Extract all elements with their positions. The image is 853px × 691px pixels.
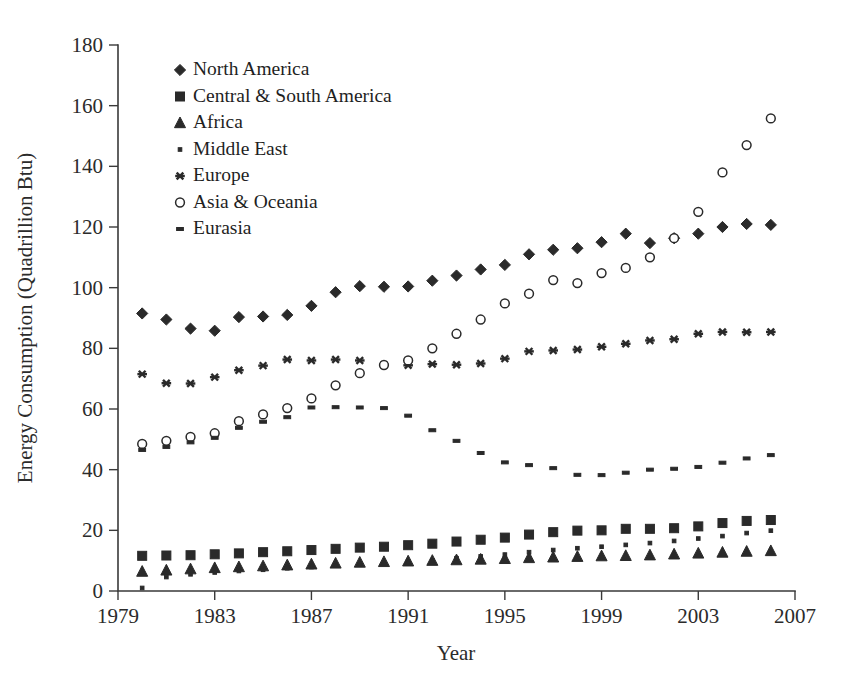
data-point <box>282 309 293 320</box>
data-point <box>259 410 268 419</box>
data-point <box>695 465 702 468</box>
data-point <box>766 329 776 336</box>
data-point <box>694 207 703 216</box>
data-point <box>741 546 752 557</box>
data-point <box>453 439 460 442</box>
legend-label: Middle East <box>193 138 288 159</box>
data-point <box>694 522 703 531</box>
x-tick-label: 1999 <box>581 604 623 628</box>
data-point <box>162 551 171 560</box>
data-point <box>452 537 461 546</box>
data-point <box>765 219 776 230</box>
data-point <box>284 416 291 419</box>
data-point <box>647 468 654 471</box>
data-point <box>669 548 680 559</box>
y-tick-label: 0 <box>93 579 104 603</box>
data-point <box>549 528 558 537</box>
data-point <box>765 545 776 556</box>
legend-item-europe: Europe <box>175 164 249 185</box>
data-point <box>332 406 339 409</box>
data-point <box>404 541 413 550</box>
data-point <box>548 347 558 354</box>
data-point <box>745 531 749 535</box>
data-point <box>576 546 580 550</box>
data-point <box>381 407 388 410</box>
data-point <box>596 237 607 248</box>
data-point <box>282 356 292 363</box>
data-point <box>427 275 438 286</box>
data-point <box>307 546 316 555</box>
data-point <box>213 571 217 575</box>
data-point <box>405 414 412 417</box>
data-point <box>355 543 364 552</box>
energy-consumption-scatter-chart: 0204060801001201401601801979198319871991… <box>0 0 853 691</box>
data-point <box>186 380 196 387</box>
data-point <box>596 550 607 561</box>
data-point <box>235 426 242 429</box>
data-point <box>477 451 484 454</box>
data-point <box>503 553 507 557</box>
data-point <box>285 566 289 570</box>
data-point <box>670 234 679 243</box>
data-point <box>186 433 195 442</box>
data-point <box>428 344 437 353</box>
data-point <box>671 467 678 470</box>
data-point <box>646 253 655 262</box>
data-point <box>161 314 172 325</box>
data-point <box>283 404 292 413</box>
x-tick-label: 2007 <box>774 604 816 628</box>
y-tick-label: 140 <box>72 154 104 178</box>
legend-item-middle-east: Middle East <box>178 138 288 159</box>
legend-label: Africa <box>193 111 243 132</box>
legend-marker-filled-square-icon <box>176 92 185 101</box>
y-tick-label: 40 <box>82 458 103 482</box>
data-point <box>766 114 775 123</box>
data-point <box>741 218 752 229</box>
y-tick-label: 100 <box>72 276 104 300</box>
legend-label: Eurasia <box>193 217 252 238</box>
data-point <box>525 289 534 298</box>
data-point <box>257 311 268 322</box>
data-point <box>696 537 700 541</box>
data-point <box>307 394 316 403</box>
data-point <box>769 529 773 533</box>
data-point <box>307 357 317 364</box>
data-point <box>743 457 750 460</box>
data-point <box>186 551 195 560</box>
x-tick-label: 1995 <box>484 604 526 628</box>
legend-marker-open-circle-icon <box>176 198 185 207</box>
data-point <box>306 300 317 311</box>
data-point <box>621 264 630 273</box>
data-point <box>137 371 147 378</box>
y-axis-title: Energy Consumption (Quadrillion Btu) <box>13 153 37 483</box>
data-point <box>693 547 704 558</box>
data-point <box>573 279 582 288</box>
data-point <box>648 541 652 545</box>
data-point <box>742 516 751 525</box>
legend-marker-small-dot-icon <box>178 148 182 152</box>
chart-legend: North AmericaCentral & South AmericaAfri… <box>174 58 392 238</box>
series-eurasia <box>139 406 774 477</box>
data-point <box>259 548 268 557</box>
data-point <box>479 555 483 559</box>
y-tick-label: 160 <box>72 94 104 118</box>
data-point <box>209 325 220 336</box>
data-point <box>573 526 582 535</box>
data-point <box>187 441 194 444</box>
data-point <box>600 545 604 549</box>
data-point <box>548 244 559 255</box>
data-point <box>428 361 438 368</box>
data-point <box>356 406 363 409</box>
y-tick-label: 60 <box>82 397 103 421</box>
data-point <box>644 237 655 248</box>
data-point <box>310 565 314 569</box>
data-point <box>404 356 413 365</box>
data-point <box>330 287 341 298</box>
data-point <box>721 534 725 538</box>
data-point <box>550 467 557 470</box>
data-point <box>621 340 631 347</box>
data-point <box>524 348 534 355</box>
x-tick-label: 1991 <box>387 604 429 628</box>
data-point <box>163 445 170 448</box>
series-africa <box>137 545 777 576</box>
